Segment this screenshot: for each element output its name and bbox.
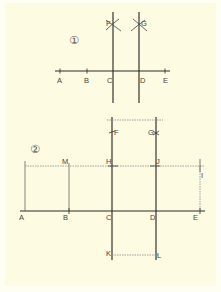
- fig2-label-l: L: [157, 251, 161, 260]
- figure-1-number: ①: [69, 34, 79, 47]
- figure-2-number: ②: [30, 143, 40, 156]
- fig2-label-d: D: [150, 213, 156, 222]
- fig2-label-c: C: [106, 213, 112, 222]
- fig1-label-g: G: [141, 19, 147, 28]
- fig2-label-f: F: [114, 128, 119, 137]
- fig1-label-b: B: [84, 76, 89, 85]
- fig2-label-i: I: [201, 171, 203, 180]
- construction-diagram: ① A B C D E F G ②: [0, 0, 221, 292]
- fig2-label-g: G: [148, 128, 154, 137]
- fig2-label-j: J: [156, 157, 160, 166]
- fig1-label-d: D: [140, 76, 146, 85]
- fig2-marks: [69, 131, 200, 214]
- fig1-label-e: E: [163, 76, 168, 85]
- fig2-label-e: E: [193, 213, 198, 222]
- fig1-label-a: A: [57, 76, 62, 85]
- fig2-label-b: B: [63, 213, 68, 222]
- fig1-label-c: C: [107, 76, 113, 85]
- figure-1: ① A B C D E F G: [55, 12, 170, 103]
- fig2-label-h: H: [106, 157, 111, 166]
- figure-2: ② A B C D E F: [19, 117, 205, 260]
- fig2-label-a: A: [19, 213, 24, 222]
- fig2-label-m: M: [62, 157, 68, 166]
- fig1-label-f: F: [106, 19, 111, 28]
- fig2-label-k: K: [106, 249, 111, 258]
